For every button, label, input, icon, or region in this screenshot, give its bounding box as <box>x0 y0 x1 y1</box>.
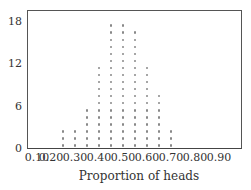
y-tick-label: 6 <box>0 101 22 112</box>
data-dot <box>134 109 136 111</box>
data-dot <box>74 144 76 146</box>
data-dot <box>134 123 136 125</box>
x-tick-label: 0.40 <box>87 152 112 163</box>
data-dot <box>134 130 136 132</box>
data-dot <box>134 144 136 146</box>
data-dot <box>110 31 112 33</box>
data-dot <box>110 109 112 111</box>
data-dot <box>110 123 112 125</box>
x-axis-label: Proportion of heads <box>0 169 251 183</box>
data-dot <box>122 31 124 33</box>
data-dot <box>122 144 124 146</box>
x-tick-label: 0.30 <box>63 152 88 163</box>
data-dot <box>86 109 88 111</box>
data-dot <box>98 116 100 118</box>
x-tick-label: 0.70 <box>159 152 184 163</box>
data-dot <box>158 116 160 118</box>
data-dot <box>98 144 100 146</box>
data-dot <box>122 24 124 26</box>
data-dot <box>86 144 88 146</box>
data-dot <box>62 144 64 146</box>
x-tick-label: 0.50 <box>111 152 136 163</box>
data-dot <box>134 116 136 118</box>
data-dot <box>98 123 100 125</box>
data-dot <box>110 24 112 26</box>
data-dot <box>110 137 112 139</box>
y-tick-label: 18 <box>0 16 22 27</box>
data-dot <box>170 144 172 146</box>
data-dot <box>134 137 136 139</box>
data-dot <box>122 116 124 118</box>
data-dot <box>122 130 124 132</box>
data-dot <box>122 137 124 139</box>
x-tick-label: 0.20 <box>39 152 64 163</box>
data-dot <box>62 137 64 139</box>
data-dot <box>110 130 112 132</box>
data-dot <box>170 137 172 139</box>
data-dot <box>146 123 148 125</box>
data-dot <box>158 137 160 139</box>
data-dot <box>158 130 160 132</box>
data-dot <box>98 109 100 111</box>
x-tick-label: 0.80 <box>183 152 208 163</box>
data-dot <box>134 31 136 33</box>
data-dot <box>62 130 64 132</box>
data-dot <box>98 137 100 139</box>
x-tick-label: 0.60 <box>135 152 160 163</box>
data-dot <box>158 109 160 111</box>
data-dot <box>110 144 112 146</box>
data-dot <box>146 116 148 118</box>
data-dot <box>170 130 172 132</box>
data-dot <box>146 130 148 132</box>
data-dot <box>74 130 76 132</box>
data-dot <box>110 116 112 118</box>
data-dot <box>146 109 148 111</box>
data-dot <box>86 137 88 139</box>
y-tick-label: 12 <box>0 58 22 69</box>
y-tick-label: 0 <box>0 143 22 154</box>
data-dot <box>146 137 148 139</box>
data-dot <box>122 109 124 111</box>
data-dot <box>146 144 148 146</box>
data-dot <box>158 123 160 125</box>
data-dot <box>158 144 160 146</box>
data-dot <box>122 123 124 125</box>
data-dot <box>86 116 88 118</box>
data-dot <box>98 130 100 132</box>
data-dot <box>74 137 76 139</box>
x-tick-label: 0.90 <box>207 152 232 163</box>
data-dot <box>86 130 88 132</box>
data-dot <box>86 123 88 125</box>
